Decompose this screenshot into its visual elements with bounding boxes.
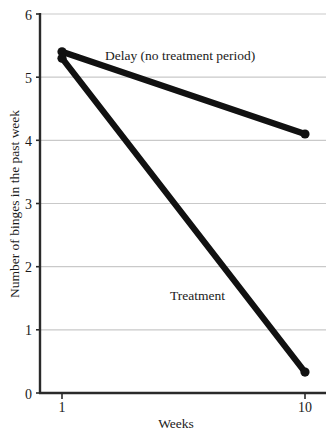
series-label-treatment: Treatment bbox=[170, 288, 225, 303]
chart-container: 6 5 4 3 2 1 0 1 10 bbox=[0, 0, 335, 439]
y-axis-title: Number of binges in the past week bbox=[7, 110, 22, 298]
y-tick-label-5: 5 bbox=[25, 71, 32, 86]
y-tick-label-2: 2 bbox=[25, 260, 32, 275]
x-tick-label-10: 10 bbox=[298, 400, 312, 415]
x-axis-title: Weeks bbox=[158, 416, 194, 431]
line-chart: 6 5 4 3 2 1 0 1 10 bbox=[0, 0, 335, 439]
y-tick-label-0: 0 bbox=[25, 387, 32, 402]
series-delay-point-week10 bbox=[300, 129, 309, 138]
series-treatment-point-week1 bbox=[57, 54, 66, 63]
y-tick-label-4: 4 bbox=[25, 134, 32, 149]
chart-background bbox=[0, 0, 335, 439]
x-tick-label-1: 1 bbox=[59, 400, 66, 415]
y-tick-label-3: 3 bbox=[25, 197, 32, 212]
y-tick-label-6: 6 bbox=[25, 8, 32, 23]
series-label-delay: Delay (no treatment period) bbox=[105, 48, 255, 63]
y-tick-label-1: 1 bbox=[25, 323, 32, 338]
series-treatment-point-week10 bbox=[300, 368, 309, 377]
